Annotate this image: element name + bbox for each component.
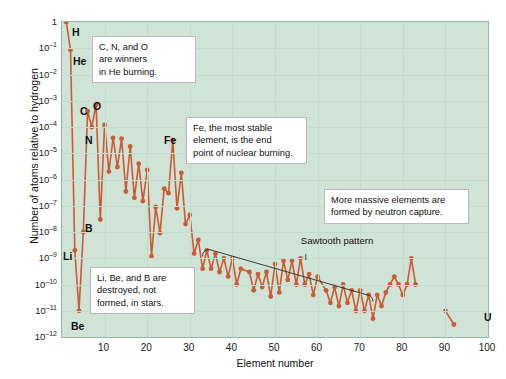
data-point	[349, 288, 354, 293]
data-point	[196, 238, 201, 243]
data-point	[452, 322, 457, 327]
element-label-o: O	[93, 100, 101, 112]
data-point	[107, 169, 112, 174]
data-point	[213, 251, 218, 256]
x-tick-label: 20	[141, 342, 152, 353]
abundance-chart-figure: 110–110–210–310–410–510–610–710–810–910–…	[0, 0, 506, 379]
element-label-be: Be	[71, 320, 84, 332]
x-axis-tick-labels: 0102030405060708090100	[61, 342, 489, 358]
element-label-c: C	[80, 105, 88, 117]
element-label-n: N	[85, 134, 93, 146]
element-label-fe: Fe	[164, 134, 176, 146]
data-point	[111, 136, 116, 141]
element-label-li: Li	[63, 250, 72, 262]
data-point	[371, 316, 376, 321]
data-point	[324, 288, 329, 293]
callout-iron: Fe, the most stable element, is the end …	[186, 117, 307, 164]
element-label-he: He	[73, 55, 86, 67]
y-tick-label: 1	[4, 16, 57, 27]
gridline-horizontal	[62, 101, 488, 102]
data-point	[264, 270, 269, 275]
data-point	[132, 195, 137, 200]
data-point	[251, 288, 256, 293]
y-tick-label: 10–12	[4, 330, 57, 342]
callout-neutron-capture: More massive elements are formed by neut…	[324, 189, 469, 224]
data-point	[268, 294, 273, 299]
gridline-horizontal	[62, 232, 488, 233]
data-point	[136, 161, 141, 166]
data-point	[345, 300, 350, 305]
data-point	[239, 266, 244, 271]
data-point	[64, 22, 69, 24]
data-point	[72, 248, 77, 253]
sawtooth-annotation-label: Sawtooth pattern	[301, 235, 374, 246]
data-point	[119, 136, 124, 141]
data-point	[375, 293, 380, 298]
data-point	[307, 272, 312, 277]
data-point	[247, 270, 252, 275]
data-point	[166, 191, 171, 196]
x-tick-label: 40	[226, 342, 237, 353]
data-point	[217, 270, 222, 275]
x-tick-label: 80	[396, 342, 407, 353]
data-point	[383, 290, 388, 295]
data-point	[256, 272, 261, 277]
data-point	[277, 290, 282, 295]
element-label-h: H	[72, 26, 80, 38]
data-point	[328, 300, 333, 305]
element-label-u: U	[484, 311, 492, 323]
x-tick-label: 60	[311, 342, 322, 353]
data-point	[204, 248, 209, 253]
y-tick-label: 10–11	[4, 304, 57, 316]
data-point	[183, 222, 188, 227]
data-point	[226, 274, 231, 279]
gridline-horizontal	[62, 258, 488, 259]
x-tick-label: 50	[268, 342, 279, 353]
y-axis-title: Number of atoms relative to hydrogen	[28, 36, 40, 276]
callout-cno: C, N, and O are winners in He burning.	[92, 36, 196, 83]
element-label-b: B	[85, 222, 93, 234]
data-point	[98, 217, 103, 222]
data-point	[200, 266, 205, 271]
x-tick-label: 30	[183, 342, 194, 353]
data-point	[366, 293, 371, 298]
x-tick-label: 100	[479, 342, 496, 353]
series-line-segment	[445, 311, 454, 325]
y-tick-label: 10–10	[4, 277, 57, 289]
callout-light-elements: Li, Be, and B are destroyed, not formed,…	[90, 267, 195, 314]
x-axis-title: Element number	[61, 357, 489, 369]
data-point	[115, 165, 120, 170]
gridline-horizontal	[62, 180, 488, 181]
x-tick-label: 10	[98, 342, 109, 353]
data-point	[192, 251, 197, 256]
data-point	[124, 189, 129, 194]
data-point	[141, 199, 146, 204]
data-point	[128, 144, 133, 149]
data-point	[337, 304, 342, 309]
data-point	[379, 304, 384, 309]
gridline-vertical	[488, 22, 489, 337]
data-point	[209, 266, 214, 271]
data-point	[311, 293, 316, 298]
data-point	[179, 170, 184, 175]
data-point	[162, 186, 167, 191]
x-tick-label: 90	[439, 342, 450, 353]
data-point	[285, 278, 290, 283]
x-tick-label: 70	[354, 342, 365, 353]
data-point	[392, 274, 397, 279]
gridline-horizontal	[62, 337, 488, 338]
